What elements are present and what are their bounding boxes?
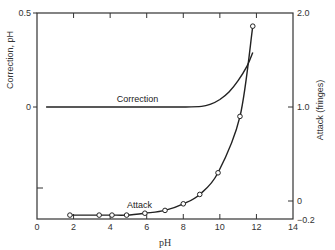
chart: 02468101214 0.50 2.01.00−0.2 pH Correcti… bbox=[0, 0, 335, 250]
attack-data-point bbox=[163, 208, 168, 213]
x-axis-label: pH bbox=[159, 237, 171, 248]
x-axis-ticks bbox=[74, 13, 257, 219]
x-axis-tick-labels: 02468101214 bbox=[34, 222, 298, 232]
attack-data-point bbox=[250, 24, 255, 29]
right-y-axis-label: Attack (fringes) bbox=[315, 80, 325, 141]
right-y-axis-ticks: 2.01.00−0.2 bbox=[288, 8, 315, 225]
attack-data-point bbox=[68, 213, 73, 218]
right-y-tick-label: 1.0 bbox=[297, 102, 310, 112]
x-tick-label: 12 bbox=[251, 222, 261, 232]
x-tick-label: 4 bbox=[108, 222, 113, 232]
x-tick-label: 0 bbox=[34, 222, 39, 232]
x-tick-label: 8 bbox=[181, 222, 186, 232]
attack-series-markers bbox=[68, 24, 255, 218]
left-y-axis-label: Correction, pH bbox=[5, 31, 15, 89]
attack-series-line bbox=[70, 26, 253, 215]
attack-data-point bbox=[238, 114, 243, 119]
left-y-tick-label: 0 bbox=[26, 102, 31, 112]
x-tick-label: 2 bbox=[71, 222, 76, 232]
attack-data-point bbox=[197, 192, 202, 197]
right-y-tick-label: 2.0 bbox=[297, 8, 310, 18]
attack-data-point bbox=[216, 171, 221, 176]
left-y-tick-label: 0.5 bbox=[18, 8, 31, 18]
x-tick-label: 10 bbox=[215, 222, 225, 232]
attack-data-point bbox=[181, 202, 186, 207]
attack-data-point bbox=[143, 211, 148, 216]
plot-frame bbox=[37, 13, 293, 219]
left-y-axis-ticks: 0.50 bbox=[18, 8, 43, 188]
attack-data-point bbox=[110, 213, 115, 218]
attack-series-label: Attack bbox=[127, 200, 153, 210]
x-tick-label: 6 bbox=[144, 222, 149, 232]
right-y-tick-label: −0.2 bbox=[297, 215, 315, 225]
attack-data-point bbox=[124, 213, 129, 218]
attack-data-point bbox=[97, 213, 102, 218]
correction-series-label: Correction bbox=[117, 94, 159, 104]
right-y-tick-label: 0 bbox=[297, 196, 302, 206]
